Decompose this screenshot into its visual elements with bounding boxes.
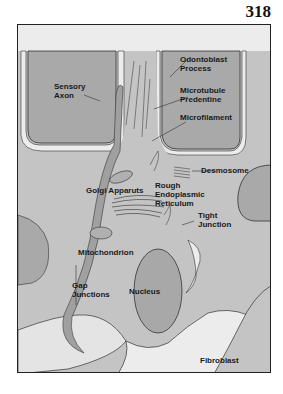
diagram-drawing [18, 25, 271, 373]
label-rough-er: Rough Endoplasmic Reticulum [155, 181, 205, 208]
label-mitochondrion: Mitochondrion [78, 248, 134, 257]
label-desmosome: Desmosome [201, 166, 249, 175]
label-sensory-axon: Sensory Axon [54, 82, 86, 100]
label-microfilament: Microfilament [180, 113, 232, 122]
label-microtubule-predentine: Microtubule Predentine [180, 86, 225, 104]
label-tight-junction: Tight Junction [198, 211, 231, 229]
mitochondrion-shape-lower [90, 227, 112, 239]
label-odontoblast-process: Odontoblast Process [180, 55, 227, 73]
label-nucleus: Nucleus [129, 287, 160, 296]
label-gap-junctions: Gap Junctions [72, 281, 110, 299]
page-number: 318 [246, 2, 272, 22]
label-fibroblast: Fibroblast [200, 356, 239, 365]
odontoblast-diagram: Odontoblast Process Sensory Axon Microtu… [17, 24, 271, 373]
label-golgi-apparatus: Golgi Apparuts [86, 186, 143, 195]
